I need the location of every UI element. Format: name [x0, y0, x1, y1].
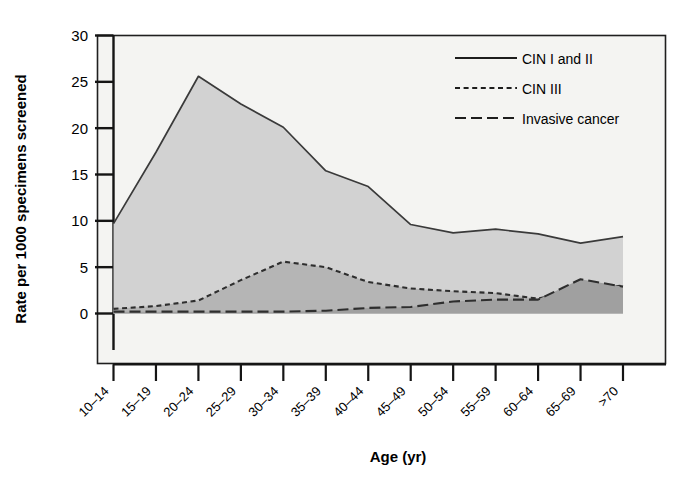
y-tick-label: 5 — [80, 259, 88, 276]
y-tick-label: 0 — [80, 305, 88, 322]
figure-container: 051015202530 Rate per 1000 specimens scr… — [0, 0, 680, 482]
legend-label: CIN I and II — [522, 51, 593, 67]
x-axis-title: Age (yr) — [370, 448, 427, 465]
legend-label: CIN III — [522, 81, 562, 97]
y-tick-label: 25 — [71, 73, 88, 90]
y-tick-label: 20 — [71, 120, 88, 137]
legend-label: Invasive cancer — [522, 111, 620, 127]
y-axis-title: Rate per 1000 specimens screened — [12, 74, 29, 323]
y-tick-label: 10 — [71, 212, 88, 229]
y-tick-label: 15 — [71, 166, 88, 183]
y-tick-label: 30 — [71, 27, 88, 44]
rate-by-age-area-chart: 051015202530 Rate per 1000 specimens scr… — [0, 0, 680, 482]
